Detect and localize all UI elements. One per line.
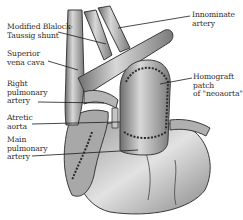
label-main-pulmonary-artery: Main pulmonary artery [7, 136, 47, 162]
label-homograft-patch: Homograft patch of "neoaorta" [193, 73, 243, 99]
label-right-pulmonary-artery: Right pulmonary artery [7, 80, 47, 106]
atretic-aorta-vessel [112, 108, 118, 128]
label-atretic-aorta: Atretic aorta [7, 114, 33, 131]
right-pulmonary-artery-vessel [84, 90, 118, 108]
label-modified-blalock-taussig-shunt: Modified Blalock- Taussig shunt [7, 23, 73, 40]
anatomy-diagram: Modified Blalock- Taussig shunt Superior… [0, 0, 243, 220]
neoaorta [120, 60, 170, 155]
label-innominate-artery: Innominate artery [192, 11, 235, 28]
label-superior-vena-cava: Superior vena cava [7, 50, 44, 67]
